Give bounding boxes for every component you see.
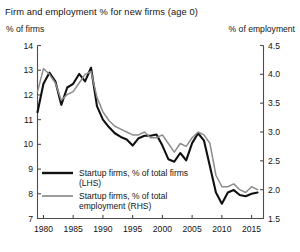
y-tick-label-left: 7	[28, 214, 33, 224]
y-tick-label-left: 14	[23, 41, 33, 51]
x-tick-label: 2000	[153, 224, 172, 234]
x-tick-label: 2015	[242, 224, 261, 234]
legend-label: Startup firms, % of total firms	[79, 168, 188, 178]
y-tick-label-right: 2.0	[268, 185, 280, 195]
x-tick-label: 2010	[212, 224, 231, 234]
x-tick-label: 2005	[183, 224, 202, 234]
y-tick-label-left: 13	[23, 65, 33, 75]
x-tick-label: 1990	[93, 224, 112, 234]
y-tick-label-left: 11	[24, 115, 33, 125]
legend-label: Startup firms, % of total	[79, 191, 167, 201]
y-tick-label-left: 8	[28, 189, 33, 199]
y-tick-label-left: 10	[23, 139, 33, 149]
y-tick-label-right: 2.5	[268, 156, 280, 166]
x-tick-label: 1995	[123, 224, 142, 234]
x-tick-label: 1985	[64, 224, 83, 234]
y-tick-label-right: 4.5	[268, 41, 280, 51]
y-tick-label-right: 4.0	[268, 69, 280, 79]
y-tick-label-left: 9	[28, 164, 33, 174]
legend-label-continued: (LHS)	[79, 178, 101, 188]
y-tick-label-right: 3.0	[268, 127, 280, 137]
x-tick-label: 1980	[34, 224, 53, 234]
data-series	[38, 68, 258, 204]
chart-legend: Startup firms, % of total firms(LHS)Star…	[42, 168, 188, 211]
plot-area: 78910111213141.52.02.53.03.54.04.5198019…	[0, 0, 300, 252]
chart-container: Firm and employment % for new firms (age…	[0, 0, 300, 252]
y-tick-label-right: 3.5	[268, 98, 280, 108]
y-tick-label-left: 12	[23, 90, 33, 100]
y-tick-label-right: 1.5	[268, 214, 280, 224]
legend-label-continued: employment (RHS)	[79, 201, 151, 211]
